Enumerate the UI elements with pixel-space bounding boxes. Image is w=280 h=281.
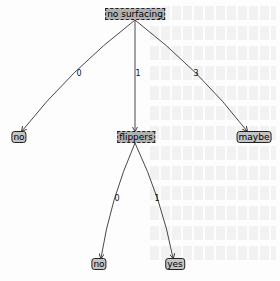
node-no-surfacing: no surfacing [105, 8, 165, 20]
edge-root-maybe [135, 20, 247, 131]
leaf-maybe: maybe [237, 131, 272, 143]
edge-label-1: 1 [135, 69, 140, 78]
leaf-yes: yes [165, 258, 185, 270]
node-flippers: flippers [117, 131, 155, 143]
edge-label-flippers-1: 1 [154, 194, 159, 203]
edge-label-0: 0 [76, 69, 81, 78]
leaf-no: no [11, 131, 26, 143]
edge-label-3: 3 [193, 69, 198, 78]
leaf-no-2: no [91, 258, 106, 270]
edge-label-flippers-0: 0 [114, 194, 119, 203]
